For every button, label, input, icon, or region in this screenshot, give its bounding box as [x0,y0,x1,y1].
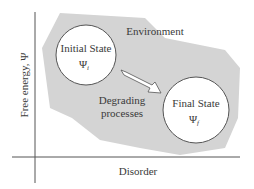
diagram-canvas: Initial State Ψi Final State Ψf Environm… [0,0,254,189]
final-state-title: Final State [172,97,219,109]
y-axis-label: Free energy, Ψ [18,52,30,118]
process-label-line1: Degrading [99,94,146,106]
x-axis-label: Disorder [119,165,158,177]
initial-state-title: Initial State [60,42,111,54]
process-label-line2: processes [101,107,143,119]
environment-label: Environment [126,25,183,37]
final-state-circle [163,77,229,143]
initial-state-circle [56,25,116,85]
